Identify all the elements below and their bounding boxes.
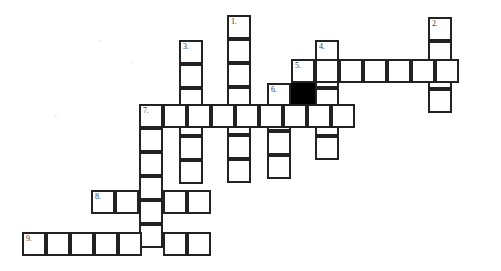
crossword-cell[interactable] (163, 190, 187, 214)
crossword-cell[interactable] (315, 136, 339, 160)
crossword-cell[interactable] (435, 59, 459, 83)
clue-number: 9. (26, 234, 31, 243)
crossword-cell[interactable]: 9. (22, 232, 46, 256)
clue-number: 3. (183, 42, 188, 51)
crossword-cell[interactable] (283, 104, 307, 128)
crossword-cell[interactable] (428, 89, 452, 113)
clue-number: 6. (271, 85, 276, 94)
clue-number: 4. (319, 42, 324, 51)
crossword-cell[interactable] (139, 176, 163, 200)
crossword-cell[interactable] (211, 104, 235, 128)
clue-number: 5. (295, 61, 300, 70)
crossword-cell[interactable]: 2. (428, 17, 452, 41)
crossword-cell[interactable] (187, 104, 211, 128)
crossword-cell[interactable] (387, 59, 411, 83)
crossword-cell[interactable] (187, 232, 211, 256)
crossword-cell[interactable] (339, 59, 363, 83)
crossword-cell[interactable] (267, 131, 291, 155)
crossword-cell[interactable] (259, 104, 283, 128)
crossword-cell[interactable] (187, 190, 211, 214)
crossword-cell[interactable] (363, 59, 387, 83)
crossword-cell[interactable] (267, 155, 291, 179)
crossword-cell[interactable] (139, 152, 163, 176)
crossword-cell[interactable] (163, 104, 187, 128)
crossword-cell[interactable] (227, 135, 251, 159)
crossword-cell[interactable] (163, 232, 187, 256)
crossword-cell[interactable]: 8. (91, 190, 115, 214)
clue-number: 8. (95, 192, 100, 201)
crossword-cell[interactable] (179, 160, 203, 184)
crossword-cell[interactable] (411, 59, 435, 83)
crossword-cell[interactable]: 7. (139, 104, 163, 128)
crossword-cell[interactable] (46, 232, 70, 256)
crossword-cell[interactable] (115, 190, 139, 214)
crossword-cell[interactable] (179, 64, 203, 88)
clue-number: 1. (231, 17, 236, 26)
crossword-cell[interactable]: 5. (291, 59, 315, 83)
crossword-cell[interactable] (227, 39, 251, 63)
crossword-cell[interactable] (118, 232, 142, 256)
crossword-cell[interactable] (139, 128, 163, 152)
crossword-cell[interactable] (139, 200, 163, 224)
crossword-cell[interactable]: 1. (227, 15, 251, 39)
crossword-cell[interactable] (179, 136, 203, 160)
crossword-cell[interactable] (315, 59, 339, 83)
crossword-cell[interactable] (227, 159, 251, 183)
crossword-cell[interactable] (70, 232, 94, 256)
clue-number: 7. (143, 106, 148, 115)
crossword-cell[interactable]: 3. (179, 40, 203, 64)
crossword-cell[interactable] (331, 104, 355, 128)
clue-number: 2. (432, 19, 437, 28)
crossword-cell[interactable] (94, 232, 118, 256)
crossword-cell[interactable] (307, 104, 331, 128)
crossword-cell[interactable] (139, 224, 163, 248)
crossword-grid[interactable]: 1.2.3.4.5.6.7.8.9. (0, 0, 501, 271)
crossword-cell[interactable] (227, 63, 251, 87)
crossword-puzzle: 1.2.3.4.5.6.7.8.9. (0, 0, 501, 271)
crossword-cell[interactable] (235, 104, 259, 128)
